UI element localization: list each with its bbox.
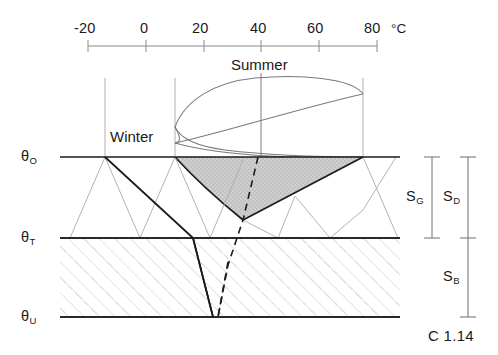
sg-subscript: G: [416, 195, 423, 206]
axis-tick-label-minus20: -20: [74, 20, 96, 36]
figure-code-label: C 1.14: [428, 327, 474, 344]
winter-label: Winter: [110, 128, 153, 145]
dimension-label-sg: SG: [406, 188, 423, 204]
theta-t-label: θT: [21, 229, 35, 245]
axis-tick-label-40: 40: [250, 20, 267, 36]
theta-u-label: θU: [21, 308, 36, 324]
summer-label: Summer: [231, 56, 288, 73]
axis-tick-label-60: 60: [307, 20, 324, 36]
dimension-label-sd: SD: [443, 188, 460, 204]
heat-storage-zone: [175, 157, 363, 220]
theta-o-subscript: O: [30, 155, 37, 166]
theta-t-symbol: θ: [21, 229, 29, 245]
axis-tick-label-0: 0: [140, 20, 148, 36]
axis-unit-label: °C: [391, 21, 406, 36]
theta-u-subscript: U: [30, 315, 37, 326]
diagram-canvas: [0, 0, 498, 355]
dimension-lines: [424, 157, 476, 317]
dimension-label-sb: SB: [443, 268, 459, 284]
sb-symbol: S: [443, 268, 453, 284]
sg-symbol: S: [406, 188, 416, 204]
axis-tick-label-20: 20: [192, 20, 209, 36]
sd-symbol: S: [443, 188, 453, 204]
theta-o-label: θO: [21, 148, 36, 164]
theta-u-symbol: θ: [21, 308, 29, 324]
soil-temperature-profile-figure: -20 0 20 40 60 80 °C Summer Winter θO θT…: [0, 0, 498, 355]
temperature-axis: [88, 40, 377, 52]
bedrock-hatched-band: [60, 238, 400, 317]
sd-subscript: D: [453, 195, 460, 206]
theta-t-subscript: T: [30, 236, 36, 247]
summer-envelope-curve: [175, 77, 363, 158]
theta-o-symbol: θ: [21, 148, 29, 164]
axis-tick-label-80: 80: [364, 20, 381, 36]
sb-subscript: B: [453, 275, 459, 286]
